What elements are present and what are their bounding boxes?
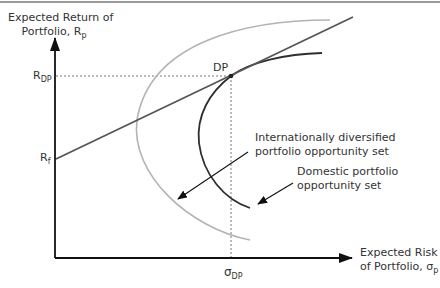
sigma-dp-main: σ: [224, 265, 232, 279]
intl-annotation-line1: Internationally diversified: [255, 131, 396, 145]
x-axis-label-line2-wrap: of Portfolio, σp: [360, 260, 438, 274]
r-dp-sub: DP: [41, 75, 52, 84]
dom-annotation-line2: opportunity set: [297, 179, 398, 193]
x-axis-label-line2: of Portfolio, σ: [360, 260, 433, 273]
x-axis-label-line1: Expected Risk: [360, 246, 438, 260]
sigma-dp-sub: DP: [232, 272, 243, 281]
dp-point-label: DP: [213, 61, 228, 75]
dom-annotation: Domestic portfolio opportunity set: [297, 165, 398, 193]
dp-point: [229, 74, 234, 79]
r-f-sub: f: [48, 157, 51, 166]
intl-annotation-arrow: [178, 152, 248, 199]
dom-annotation-line1: Domestic portfolio: [297, 165, 398, 179]
intl-annotation-line2: portfolio opportunity set: [255, 145, 396, 159]
y-axis-label-sub: p: [81, 31, 86, 40]
international-opportunity-set-curve: [136, 20, 330, 240]
dom-annotation-arrow: [258, 183, 293, 204]
x-axis-label: Expected Risk of Portfolio, σp: [360, 246, 438, 274]
r-dp-main: R: [33, 69, 41, 82]
y-axis-label-line2: Portfolio, R: [22, 25, 82, 38]
intl-annotation: Internationally diversified portfolio op…: [255, 131, 396, 159]
sigma-dp-label: σDP: [224, 265, 243, 279]
x-axis-label-sub: p: [433, 266, 438, 275]
y-axis-label-line2-wrap: Portfolio, Rp: [8, 25, 100, 39]
r-dp-label: RDP: [33, 69, 52, 83]
y-axis-label-line1: Expected Return of: [8, 11, 100, 25]
r-f-main: R: [40, 151, 48, 164]
y-axis-label: Expected Return of Portfolio, Rp: [8, 11, 100, 39]
r-f-label: Rf: [40, 151, 50, 165]
